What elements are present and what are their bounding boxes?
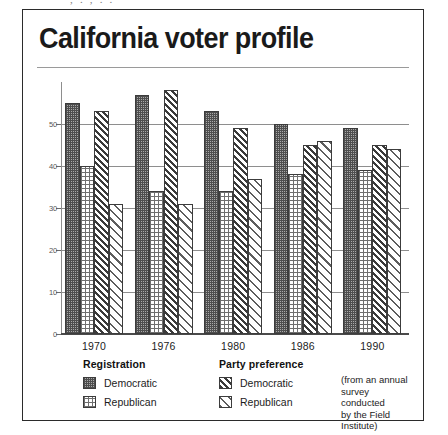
bar-1980-dark-diagonal — [233, 128, 248, 334]
swatch-dark-diagonal-icon — [219, 377, 232, 389]
bar-1986-dark-dotted — [274, 124, 289, 334]
y-tick-label-30: 30 — [49, 204, 57, 213]
bar-1986-dark-diagonal — [303, 145, 318, 334]
bar-1976-light-diagonal — [178, 204, 193, 334]
bar-group-1986 — [274, 82, 332, 334]
bar-1980-light-diagonal — [248, 179, 263, 334]
bar-1990-light-diagonal — [387, 149, 402, 334]
legend-item-registration-republican: Republican — [83, 393, 157, 410]
y-tick-label-0: 0 — [53, 330, 57, 339]
legend-item-registration-democratic: Democratic — [83, 374, 157, 391]
bar-1970-dark-dotted — [65, 103, 80, 334]
legend-label-preference-republican: Republican — [240, 396, 293, 408]
bar-group-1990 — [343, 82, 401, 334]
x-axis-label-1990: 1990 — [331, 340, 413, 352]
chart-title: California voter profile — [39, 22, 313, 55]
bar-1976-dark-dotted — [135, 95, 150, 334]
bar-1970-light-diagonal — [109, 204, 124, 334]
bar-1986-light-dotted — [288, 174, 303, 334]
swatch-light-dotted-icon — [83, 396, 96, 408]
legend-label-preference-democratic: Democratic — [240, 377, 293, 389]
legend-heading-party-preference: Party preference — [219, 358, 303, 370]
chart-legend: Registration Democratic Republican Party… — [61, 358, 413, 416]
legend-group-registration: Registration Democratic Republican — [83, 358, 157, 410]
bar-1970-dark-diagonal — [94, 111, 109, 334]
bar-series-layer — [61, 82, 409, 334]
swatch-dark-dotted-icon — [83, 377, 96, 389]
bar-group-1980 — [204, 82, 262, 334]
bar-1990-dark-dotted — [343, 128, 358, 334]
bar-1986-light-diagonal — [317, 141, 332, 334]
chart-figure: California voter profile 01020304050 197… — [22, 9, 424, 421]
legend-label-registration-democratic: Democratic — [104, 377, 157, 389]
legend-item-preference-democratic: Democratic — [219, 374, 303, 391]
bar-1990-light-dotted — [358, 170, 373, 334]
bar-group-1970 — [65, 82, 123, 334]
y-tick-label-20: 20 — [49, 246, 57, 255]
bar-1990-dark-diagonal — [372, 145, 387, 334]
bar-1976-light-dotted — [149, 191, 164, 334]
bar-group-1976 — [135, 82, 193, 334]
legend-item-preference-republican: Republican — [219, 393, 303, 410]
plot-area: 01020304050 19701976198019861990 — [61, 82, 409, 334]
bar-1980-dark-dotted — [204, 111, 219, 334]
y-tick-label-50: 50 — [49, 120, 57, 129]
scan-artifact-top-text: , . , . . — [0, 0, 448, 9]
legend-label-registration-republican: Republican — [104, 396, 157, 408]
legend-source-note: (from an annual survey conducted by the … — [341, 374, 413, 432]
title-divider — [37, 67, 409, 68]
legend-group-party-preference: Party preference Democratic Republican — [219, 358, 303, 410]
y-tick-label-10: 10 — [49, 288, 57, 297]
bar-1976-dark-diagonal — [164, 90, 179, 334]
y-tick-label-40: 40 — [49, 162, 57, 171]
bar-1970-light-dotted — [80, 166, 95, 334]
legend-heading-registration: Registration — [83, 358, 157, 370]
bar-1980-light-dotted — [219, 191, 234, 334]
swatch-light-diagonal-icon — [219, 396, 232, 408]
clipped-text-line: , . , . . — [70, 0, 448, 5]
